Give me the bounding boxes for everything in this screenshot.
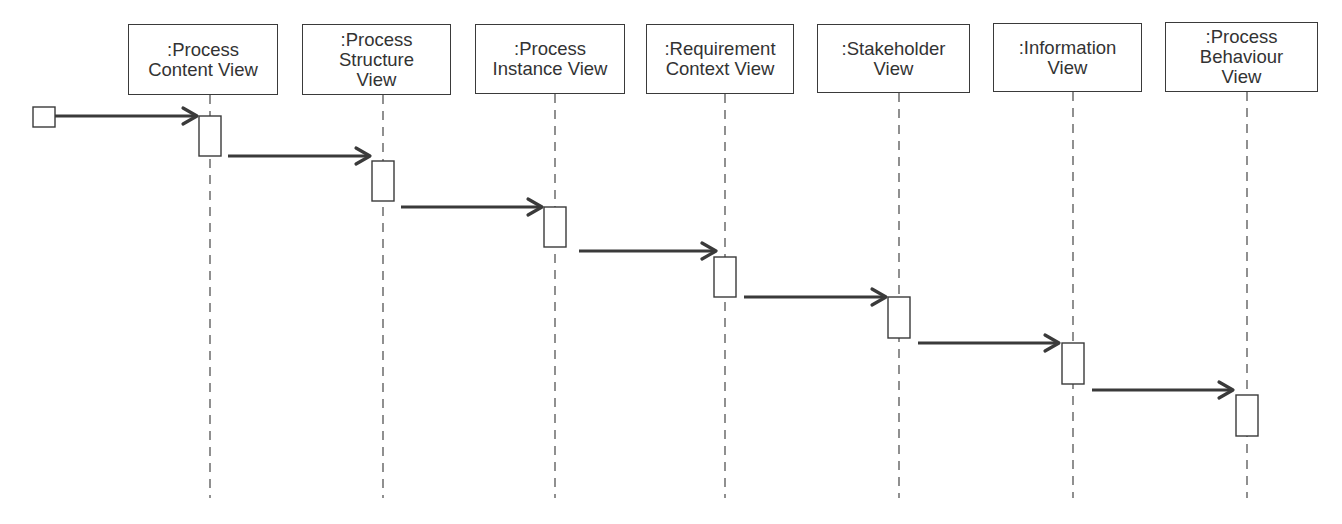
activation-bar — [199, 116, 221, 156]
lifeline-process-instance-view: :Process Instance View — [475, 24, 625, 94]
lifeline-label: :Process Content View — [148, 40, 258, 80]
initial-node-square — [33, 107, 55, 127]
message-arrow — [228, 148, 370, 164]
lifeline-label: :Information View — [1019, 38, 1117, 78]
lifeline-process-structure-view: :Process Structure View — [302, 24, 451, 95]
lifeline-label: :Stakeholder View — [842, 39, 946, 79]
activation-bar — [888, 297, 910, 338]
sequence-diagram: :Process Content View:Process Structure … — [0, 0, 1342, 524]
message-arrow — [918, 335, 1059, 351]
activation-bar — [372, 161, 394, 201]
lifeline-label: :Process Instance View — [493, 39, 608, 79]
message-arrow — [579, 243, 716, 259]
initial-node — [33, 107, 55, 127]
message-arrow — [401, 199, 542, 215]
lifeline-process-content-view: :Process Content View — [128, 24, 278, 95]
lifeline-label: :Process Structure View — [339, 30, 414, 90]
message-arrow — [55, 108, 197, 124]
message-arrow — [1092, 382, 1233, 398]
lifeline-stakeholder-view: :Stakeholder View — [817, 24, 970, 93]
lifeline-process-behaviour-view: :Process Behaviour View — [1165, 22, 1318, 92]
lifeline-information-view: :Information View — [993, 23, 1142, 92]
lifeline-label: :Process Behaviour View — [1200, 27, 1283, 87]
message-arrow — [744, 289, 886, 305]
activation-bar — [1062, 343, 1084, 384]
activation-bar — [544, 207, 566, 247]
activation-bar — [1236, 395, 1258, 436]
activation-bar — [714, 257, 736, 297]
lifeline-label: :Requirement Context View — [664, 39, 775, 79]
messages — [55, 108, 1233, 398]
lifeline-requirement-context-view: :Requirement Context View — [646, 24, 794, 94]
